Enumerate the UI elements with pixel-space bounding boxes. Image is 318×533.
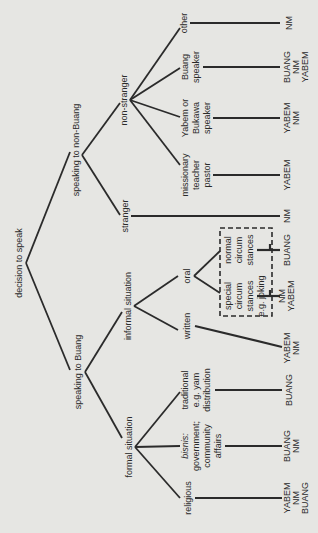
bisnis-line1: bisnis: [180, 433, 190, 459]
outcome-other: NM [284, 16, 294, 30]
edge-nonbuang-stranger [82, 155, 120, 215]
bisnis-line2: government; [191, 421, 201, 471]
special-line3: stances [245, 280, 255, 312]
outcome-normal: BUANG [282, 234, 292, 266]
outcome-special-2: YABEM [286, 281, 296, 312]
traditional-line2: e.g. yam [191, 373, 201, 408]
yabem-speaker-line2: Bukawa [191, 102, 201, 134]
normal-line1: normal [223, 236, 233, 264]
other-label: other [179, 13, 189, 34]
yabem-speaker-line1: Yabem or [180, 99, 190, 137]
special-line4: e.g. joking [256, 275, 266, 316]
nonstranger-label: non-stranger [119, 74, 129, 125]
traditional-line3: distribution [202, 368, 212, 412]
stranger-label: stranger [120, 199, 130, 232]
outcome-stranger: NM [282, 209, 292, 223]
edge-oral-special [194, 276, 220, 293]
edge-oral-normal [194, 251, 220, 276]
outcome-traditional: BUANG [284, 374, 294, 406]
missionary-line2: teacher [191, 160, 201, 190]
edge-root-buang [26, 263, 70, 370]
outcome-buang-speaker-3: YABEM [300, 52, 310, 83]
missionary-line3: pastor [202, 162, 212, 187]
edge-formal-bisnis [135, 446, 180, 447]
religious-label: religious [183, 481, 193, 515]
bisnis-line4: affairs [213, 433, 223, 458]
missionary-line1: missionary [180, 153, 190, 197]
outcomes: NM BUANG NM YABEM YABEM NM YABEM NM BUAN… [277, 16, 310, 514]
buang-label: speaking to Buang [73, 335, 83, 410]
edge-formal-traditional [135, 392, 180, 447]
leaf-line-written [195, 326, 282, 347]
formal-label: formal situation [124, 416, 134, 477]
edge-formal-religious [135, 447, 180, 498]
oral-label: oral [182, 268, 192, 283]
root-label: decision to speak [14, 228, 24, 298]
node-labels: decision to speak speaking to non-Buang … [14, 74, 192, 477]
outcome-missionary: YABEM [282, 160, 292, 191]
normal-line3: stances [245, 234, 255, 266]
nonstranger-children: other Buang speaker Yabem or Bukawa spea… [179, 13, 212, 197]
special-line2: circum [234, 283, 244, 310]
edge-root-nonbuang [26, 152, 70, 263]
edge-buang-formal [85, 372, 122, 438]
outcome-bisnis-2: NM [291, 439, 301, 453]
normal-line2: circum [234, 237, 244, 264]
outcome-yabem-speaker-2: NM [291, 111, 301, 125]
decision-tree-diagram: decision to speak speaking to non-Buang … [0, 0, 318, 533]
bisnis-line3: community [202, 424, 212, 468]
edge-ns-other [130, 28, 180, 100]
written-label: written [182, 313, 192, 341]
edge-informal-oral [134, 276, 178, 306]
edge-ns-buang-speaker [130, 68, 180, 100]
outcome-religious-3: BUANG [300, 482, 310, 514]
buang-speaker-line2: speaker [191, 51, 201, 83]
nonbuang-label: speaking to non-Buang [71, 104, 81, 197]
outcome-written-2: NM [291, 341, 301, 355]
oral-children: normal circum stances special circum sta… [223, 234, 266, 317]
buang-speaker-line1: Buang [180, 54, 190, 80]
informal-label: informal situation [123, 272, 133, 340]
traditional-line1: traditional [180, 370, 190, 409]
yabem-speaker-line3: speaker [202, 102, 212, 134]
edge-nonbuang-nonstranger [82, 103, 120, 155]
edge-ns-missionary [130, 100, 180, 165]
edge-buang-informal [85, 312, 122, 372]
special-line1: special [223, 282, 233, 310]
edge-informal-written [134, 306, 178, 330]
